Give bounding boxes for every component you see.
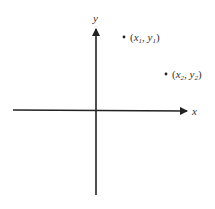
point-2-marker — [165, 73, 168, 76]
x-axis-label: x — [191, 105, 197, 117]
coordinate-plane: x y (x1, y1) (x2, y2) — [0, 0, 215, 209]
x-axis — [13, 110, 187, 111]
point-2-label: (x2, y2) — [172, 68, 202, 82]
point-1-marker — [123, 36, 126, 39]
y-axis-label: y — [92, 12, 98, 24]
point-1-label: (x1, y1) — [130, 31, 160, 45]
